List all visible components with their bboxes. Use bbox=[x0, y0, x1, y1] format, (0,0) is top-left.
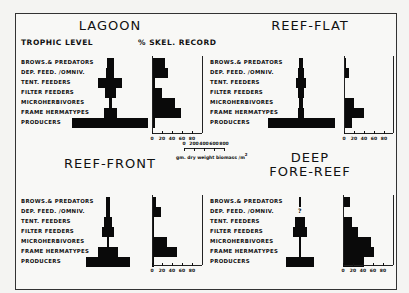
skel-tick bbox=[172, 131, 173, 134]
panel-title-lagoon: LAGOON bbox=[60, 19, 160, 33]
skel-record-bar bbox=[343, 227, 358, 237]
biomass-bar bbox=[299, 58, 303, 68]
panel-title-reef-front: REEF-FRONT bbox=[50, 157, 170, 171]
skel-tick-label: 60 bbox=[179, 268, 185, 273]
skel-tick-label: 0 bbox=[341, 268, 344, 273]
trophic-level-header: TROPHIC LEVEL bbox=[21, 38, 93, 47]
biomass-bar bbox=[293, 227, 307, 237]
skel-record-bar bbox=[343, 217, 352, 227]
biomass-bar bbox=[299, 237, 301, 247]
skel-tick-label: 60 bbox=[370, 268, 376, 273]
skel-tick-label: 40 bbox=[169, 136, 175, 141]
biomass-bar bbox=[98, 247, 118, 257]
skel-record-bar bbox=[152, 98, 175, 108]
skel-record-bar bbox=[344, 98, 354, 108]
scale-tick bbox=[194, 148, 195, 151]
scale-tick bbox=[184, 148, 185, 151]
trophic-label: MICROHERBIVORES bbox=[21, 238, 84, 245]
biomass-bar bbox=[105, 88, 116, 98]
trophic-label: FILTER FEEDERS bbox=[21, 228, 74, 235]
skel-record-bar bbox=[152, 207, 161, 217]
skel-record-bar bbox=[343, 247, 374, 257]
biomass-bar bbox=[106, 68, 114, 78]
skel-tick-label: 40 bbox=[361, 136, 367, 141]
biomass-bar bbox=[72, 118, 148, 128]
scale-unit-sup: 2 bbox=[245, 152, 248, 157]
biomass-bar bbox=[98, 78, 122, 88]
skel-tick-label: 0 bbox=[150, 136, 153, 141]
skel-tick-label: 0 bbox=[342, 136, 345, 141]
trophic-label: MICROHERBIVORES bbox=[210, 99, 273, 106]
skel-tick-label: 60 bbox=[371, 136, 377, 141]
skel-tick bbox=[162, 263, 163, 266]
scale-tick bbox=[224, 148, 225, 151]
skel-tick-label: 80 bbox=[380, 268, 386, 273]
skel-axis-right bbox=[202, 195, 203, 265]
panel-title-fore-reef: FORE-REEF bbox=[260, 165, 360, 179]
scale-tick bbox=[214, 148, 215, 151]
skel-axis-right bbox=[202, 56, 203, 133]
trophic-label: FILTER FEEDERS bbox=[210, 89, 263, 96]
skel-record-bar bbox=[152, 237, 167, 247]
skel-axis-right bbox=[393, 195, 394, 265]
skel-axis-bottom bbox=[343, 265, 393, 266]
scale-tick-label: 600 bbox=[209, 141, 218, 146]
scale-unit-text: gm. dry weight biomass /m bbox=[176, 155, 245, 160]
trophic-label: DEP. FEED. /OMNIV. bbox=[21, 208, 85, 215]
trophic-label: FRAME HERMATYPES bbox=[210, 248, 278, 255]
skel-tick bbox=[344, 131, 345, 134]
biomass-bar bbox=[299, 197, 301, 207]
skel-record-bar bbox=[152, 88, 162, 98]
skel-axis-bottom bbox=[344, 133, 393, 134]
biomass-bar bbox=[109, 98, 112, 108]
skel-tick-label: 80 bbox=[189, 136, 195, 141]
skel-tick-label: 60 bbox=[179, 136, 185, 141]
scale-tick-label: 800 bbox=[219, 141, 228, 146]
skel-tick bbox=[152, 263, 153, 266]
skel-record-bar bbox=[152, 68, 168, 78]
biomass-bar bbox=[107, 237, 109, 247]
trophic-label: FILTER FEEDERS bbox=[21, 89, 74, 96]
trophic-label: PRODUCERS bbox=[21, 258, 61, 265]
skel-axis-right bbox=[393, 56, 394, 133]
trophic-label: FRAME HERMATYPES bbox=[21, 109, 89, 116]
biomass-bar bbox=[295, 217, 305, 227]
trophic-label: DEP. FEED. /OMNIV. bbox=[210, 69, 274, 76]
biomass-bar bbox=[299, 247, 301, 257]
trophic-label: TENT. FEEDERS bbox=[21, 79, 71, 86]
skel-record-bar bbox=[152, 58, 165, 68]
biomass-bar bbox=[106, 207, 110, 217]
skel-record-header: % SKEL. RECORD bbox=[138, 38, 216, 47]
trophic-label: TENT. FEEDERS bbox=[210, 218, 260, 225]
skel-record-bar bbox=[344, 118, 352, 128]
skel-tick bbox=[384, 131, 385, 134]
skel-tick-label: 20 bbox=[351, 136, 357, 141]
skel-tick-label: 0 bbox=[150, 268, 153, 273]
skel-tick bbox=[192, 263, 193, 266]
skel-tick bbox=[182, 263, 183, 266]
skel-tick bbox=[364, 131, 365, 134]
biomass-bar bbox=[104, 217, 112, 227]
biomass-bar bbox=[298, 108, 304, 118]
trophic-label: FRAME HERMATYPES bbox=[210, 109, 278, 116]
skel-tick bbox=[383, 263, 384, 266]
skel-axis-left bbox=[152, 56, 153, 133]
panel-title-reef-flat: REEF-FLAT bbox=[250, 19, 370, 33]
skel-record-bar bbox=[152, 247, 177, 257]
skel-record-bar bbox=[343, 197, 350, 207]
skel-axis-left bbox=[152, 195, 153, 265]
biomass-bar bbox=[298, 88, 304, 98]
trophic-label: BROWS.& PREDATORS bbox=[210, 59, 283, 66]
biomass-bar bbox=[86, 257, 130, 267]
skel-tick bbox=[363, 263, 364, 266]
skel-tick-label: 40 bbox=[169, 268, 175, 273]
skel-record-bar bbox=[344, 108, 364, 118]
skel-axis-bottom bbox=[152, 133, 202, 134]
biomass-bar bbox=[102, 227, 114, 237]
skel-axis-bottom bbox=[152, 265, 202, 266]
trophic-label: FRAME HERMATYPES bbox=[21, 248, 89, 255]
skel-tick-label: 80 bbox=[381, 136, 387, 141]
trophic-label: TENT. FEEDERS bbox=[21, 218, 71, 225]
trophic-label: TENT. FEEDERS bbox=[210, 79, 260, 86]
biomass-bar bbox=[298, 68, 304, 78]
